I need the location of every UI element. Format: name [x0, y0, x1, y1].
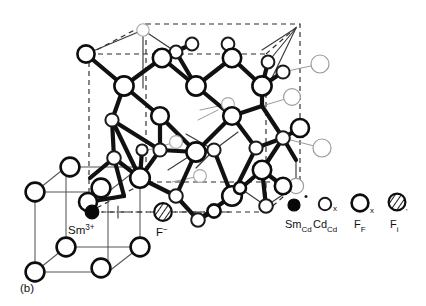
atom-f	[253, 161, 271, 179]
atom-f-subcube	[61, 158, 80, 177]
atom-f	[234, 182, 246, 194]
atom-cd	[136, 144, 147, 155]
atom-cd-back	[170, 136, 183, 149]
crystal-structure-figure: Sm3+ F− (b) SmCd • CdCd x FF	[0, 0, 426, 306]
atom-cd	[191, 213, 205, 227]
atom-f	[275, 178, 291, 194]
atom-f-interstitial	[154, 203, 172, 221]
atom-cd	[107, 151, 121, 165]
legend-swatch-hatched-circle-icon	[389, 194, 406, 211]
atom-f-subcube	[26, 183, 45, 202]
atom-f-subcube	[131, 238, 150, 257]
atom-f	[151, 107, 169, 125]
structure-svg: Sm3+ F− (b) SmCd • CdCd x FF	[0, 0, 426, 306]
atom-f-subcube	[92, 259, 111, 278]
atom-cd	[259, 199, 273, 213]
legend-swatch-small-open-circle-icon	[319, 198, 331, 210]
atom-f	[186, 142, 205, 161]
legend-sup-cd: x	[333, 204, 337, 213]
panel-label: (b)	[20, 282, 34, 294]
legend-swatch-filled-circle-icon	[288, 199, 300, 211]
atom-f-back	[313, 139, 331, 157]
legend-sup-sm: •	[304, 190, 308, 202]
atom-f-subcube	[26, 263, 45, 282]
atom-cd-back	[137, 24, 149, 36]
atom-f	[130, 168, 150, 188]
atom-cd-back	[194, 170, 207, 183]
atom-f	[186, 76, 205, 95]
atom-f	[291, 119, 309, 137]
atom-cd	[153, 143, 166, 156]
atom-cd	[262, 56, 275, 69]
atom-cd	[105, 113, 118, 126]
atom-f-back	[311, 55, 329, 73]
atom-f	[77, 45, 94, 62]
legend-swatch-large-open-circle-icon	[352, 195, 369, 212]
atom-f-subcube	[57, 238, 76, 257]
atom-cd	[276, 131, 290, 145]
atom-sm-dopant	[85, 205, 99, 219]
atom-f	[207, 204, 220, 217]
atom-f	[223, 107, 241, 125]
atom-f	[153, 49, 171, 67]
atom-f	[114, 76, 133, 95]
atom-cd	[169, 189, 183, 203]
atom-cd	[186, 38, 199, 51]
legend-sup-f: x	[370, 206, 374, 215]
atom-f-back	[284, 89, 301, 106]
atom-f	[252, 76, 271, 95]
atom-cd	[207, 143, 220, 156]
atom-f	[223, 49, 241, 67]
atom-cd	[249, 141, 262, 154]
atom-cd	[276, 65, 289, 78]
